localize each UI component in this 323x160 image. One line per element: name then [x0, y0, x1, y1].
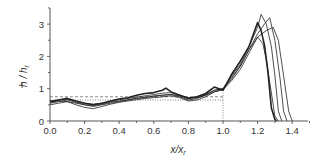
- x-tick-label: 0.0: [43, 125, 56, 136]
- data-series: [50, 14, 292, 121]
- x-tick-label: 0.8: [182, 125, 195, 136]
- x-tick-label: 0.2: [78, 125, 91, 136]
- series-line: [50, 27, 292, 121]
- line-chart: 0.00.20.40.60.81.01.21.4 0123 x/xr h / h…: [0, 0, 323, 160]
- x-tick-label: 1.0: [216, 125, 229, 136]
- x-tick-label: 0.6: [147, 125, 160, 136]
- y-tick-label: 1: [39, 83, 44, 94]
- y-axis-label: h / hr: [18, 64, 30, 86]
- x-tick-label: 0.4: [113, 125, 126, 136]
- x-axis-ticks: 0.00.20.40.60.81.01.21.4: [43, 121, 309, 136]
- y-tick-label: 3: [39, 19, 44, 30]
- series-line: [50, 37, 278, 121]
- x-tick-label: 1.2: [251, 125, 264, 136]
- series-line: [50, 18, 287, 121]
- x-axis-label: x/xr: [169, 144, 186, 156]
- series-line: [50, 23, 277, 122]
- y-tick-label: 2: [39, 51, 44, 62]
- y-tick-label: 0: [39, 116, 44, 127]
- y-axis-ticks: 0123: [39, 8, 50, 127]
- x-tick-label: 1.4: [286, 125, 299, 136]
